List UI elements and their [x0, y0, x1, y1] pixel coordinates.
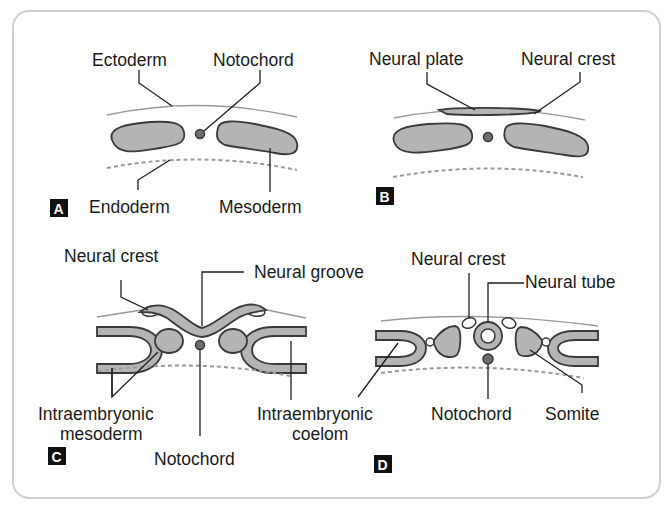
label-somite: Somite: [545, 404, 599, 424]
notochord: [196, 130, 205, 139]
label-ectoderm: Ectoderm: [92, 50, 167, 70]
label-intraembryonic-coelom-2: coelom: [292, 424, 348, 444]
notochord: [483, 354, 493, 364]
label-intraembryonic-mesoderm-2: mesoderm: [60, 424, 143, 444]
label-notochord: Notochord: [431, 404, 512, 424]
embryo-diagram: Ectoderm Notochord Endoderm Mesoderm A N…: [0, 0, 668, 521]
label-intraembryonic-coelom-1: Intraembryonic: [257, 404, 373, 424]
notochord: [484, 133, 493, 142]
label-intraembryonic-mesoderm-1: Intraembryonic: [38, 404, 154, 424]
panel-tag-a: A: [54, 201, 64, 217]
paraxial-mesoderm-left: [155, 329, 183, 353]
panel-tag-c: C: [52, 449, 62, 465]
label-neural-tube: Neural tube: [525, 272, 615, 292]
label-notochord: Notochord: [213, 50, 294, 70]
panel-tag-b: B: [380, 189, 390, 205]
label-neural-crest: Neural crest: [64, 246, 158, 266]
notochord: [196, 341, 205, 350]
label-notochord: Notochord: [154, 449, 235, 469]
paraxial-mesoderm-right: [219, 329, 247, 353]
intermediate-mesoderm-left: [426, 338, 434, 346]
label-neural-crest: Neural crest: [411, 249, 505, 269]
label-neural-plate: Neural plate: [369, 49, 463, 69]
intermediate-mesoderm-right: [542, 338, 550, 346]
neural-canal: [481, 329, 495, 343]
panel-tag-d: D: [378, 457, 388, 473]
label-neural-groove: Neural groove: [254, 262, 364, 282]
label-neural-crest: Neural crest: [521, 49, 615, 69]
label-mesoderm: Mesoderm: [219, 197, 302, 217]
neural-plate: [439, 108, 540, 115]
label-endoderm: Endoderm: [89, 197, 170, 217]
